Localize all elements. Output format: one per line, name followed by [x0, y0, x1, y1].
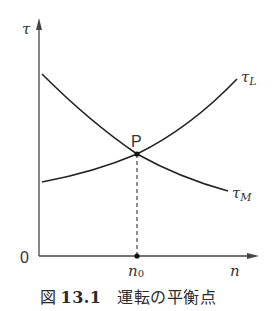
- y-axis-arrow-icon: [36, 18, 42, 30]
- n0-label: n0: [128, 262, 144, 280]
- equilibrium-diagram: τ 0 n n0 P τL τM 図13.1運転の平衡点: [0, 0, 276, 311]
- equilibrium-point-marker: [134, 151, 139, 156]
- figure-caption: 図13.1運転の平衡点: [40, 284, 276, 308]
- caption-title: 運転の平衡点: [117, 288, 216, 307]
- point-p-label: P: [131, 133, 142, 150]
- tau-l-label: τL: [241, 68, 257, 88]
- origin-label: 0: [20, 249, 29, 266]
- caption-prefix: 図: [40, 288, 57, 307]
- x-axis-label: n: [230, 262, 240, 280]
- x-axis-arrow-icon: [247, 253, 259, 259]
- y-axis-label: τ: [22, 20, 31, 38]
- tau-m-label: τM: [232, 184, 252, 204]
- diagram-canvas: τ 0 n n0 P τL τM: [0, 0, 276, 311]
- n0-point-marker: [134, 253, 139, 258]
- caption-number: 13.1: [61, 288, 102, 307]
- curve-tau-l: [42, 79, 237, 182]
